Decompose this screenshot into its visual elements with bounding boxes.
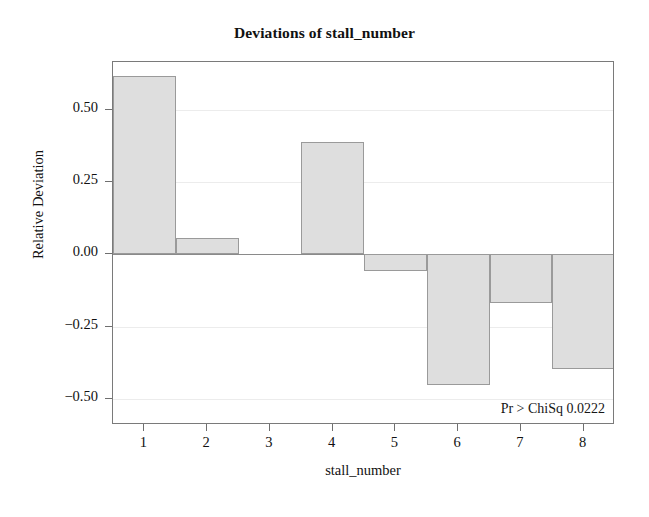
gridline <box>113 110 613 111</box>
x-axis-tick-label: 1 <box>123 434 163 451</box>
x-axis-tick <box>332 424 333 431</box>
gridline <box>113 327 613 328</box>
x-axis-tick-label: 3 <box>249 434 289 451</box>
x-axis-tick-label: 4 <box>312 434 352 451</box>
y-axis-tick <box>105 326 112 327</box>
chisq-annotation: Pr > ChiSq 0.0222 <box>501 401 605 417</box>
bar <box>427 254 490 385</box>
y-axis-tick-label: −0.25 <box>64 316 98 333</box>
bar <box>113 76 176 254</box>
gridline <box>113 399 613 400</box>
x-axis-tick-label: 5 <box>374 434 414 451</box>
bar <box>176 238 239 254</box>
x-axis-tick-label: 6 <box>437 434 477 451</box>
x-axis-tick <box>206 424 207 431</box>
y-axis-title: Relative Deviation <box>30 90 47 320</box>
bar <box>552 254 614 368</box>
chart-figure: Deviations of stall_number Relative Devi… <box>0 0 649 517</box>
x-axis-title: stall_number <box>112 462 614 479</box>
x-axis-tick <box>520 424 521 431</box>
y-axis-tick <box>105 398 112 399</box>
bar <box>301 142 364 255</box>
x-axis-tick <box>143 424 144 431</box>
bar <box>490 254 553 303</box>
y-axis-tick-label: 0.00 <box>73 243 98 260</box>
x-axis-tick-label: 2 <box>186 434 226 451</box>
y-axis-tick <box>105 253 112 254</box>
x-axis-tick-label: 7 <box>500 434 540 451</box>
y-axis-tick-label: −0.50 <box>64 388 98 405</box>
plot-area: Pr > ChiSq 0.0222 <box>112 61 614 424</box>
x-axis-tick <box>269 424 270 431</box>
x-axis-tick <box>394 424 395 431</box>
x-axis-tick <box>583 424 584 431</box>
y-axis-tick <box>105 181 112 182</box>
x-axis-tick <box>457 424 458 431</box>
y-axis-tick <box>105 109 112 110</box>
bar <box>364 254 427 270</box>
y-axis-tick-label: 0.50 <box>73 99 98 116</box>
y-axis-tick-label: 0.25 <box>73 171 98 188</box>
chart-title: Deviations of stall_number <box>0 24 649 42</box>
x-axis-tick-label: 8 <box>563 434 603 451</box>
